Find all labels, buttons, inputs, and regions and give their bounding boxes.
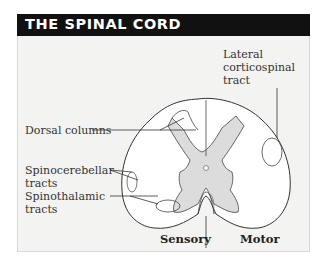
label-sensory: Sensory <box>160 233 211 246</box>
label-spinocerebellar-2: tracts <box>25 177 57 190</box>
label-spinocerebellar-1: Spinocerebellar <box>25 164 114 177</box>
label-motor: Motor <box>240 233 279 246</box>
label-lateral-corticospinal-1: Lateral <box>223 48 263 61</box>
label-dorsal-columns: Dorsal columns <box>25 124 111 137</box>
label-lateral-corticospinal-3: tract <box>223 74 250 87</box>
label-lateral-corticospinal-2: corticospinal <box>223 61 295 74</box>
label-spinothalamic-2: tracts <box>25 203 57 216</box>
label-spinothalamic-1: Spinothalamic <box>25 190 105 203</box>
